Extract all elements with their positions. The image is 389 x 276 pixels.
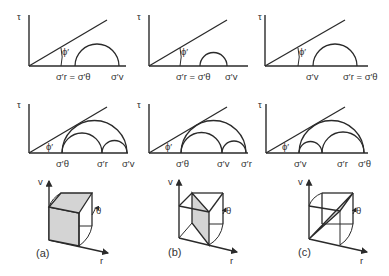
mohr-circle-small bbox=[102, 141, 127, 154]
tau-axis-label: τ bbox=[17, 11, 21, 22]
sigma-label: σ′v bbox=[225, 71, 238, 82]
failure-envelope bbox=[29, 107, 107, 153]
curved-edge bbox=[79, 226, 92, 246]
failure-envelope bbox=[29, 20, 107, 66]
mohr-circle bbox=[200, 53, 227, 67]
r-axis-label: r bbox=[360, 255, 363, 266]
v-axis-label: v bbox=[168, 176, 173, 187]
stress-element-a: v r θ (a) bbox=[36, 176, 108, 266]
mohr-circle bbox=[313, 44, 357, 66]
phi-label: ϕ′ bbox=[282, 141, 289, 152]
mohr-circle-minor bbox=[322, 132, 364, 153]
failure-envelope bbox=[265, 20, 345, 66]
curved-edge bbox=[309, 193, 322, 206]
stress-element-c: v r θ (c) bbox=[298, 176, 367, 266]
sigma-label: σ′v bbox=[217, 158, 230, 169]
mohr-circle bbox=[75, 44, 119, 66]
failure-envelope bbox=[149, 20, 227, 66]
theta-label: θ bbox=[96, 205, 101, 216]
sigma-label: σ′v bbox=[306, 71, 319, 82]
edge bbox=[209, 193, 223, 212]
tau-axis-label: τ bbox=[137, 11, 141, 22]
phi-label: ϕ′ bbox=[46, 141, 53, 152]
sigma-label: σ′r bbox=[241, 158, 252, 169]
sigma-label: σ′v bbox=[111, 71, 124, 82]
sigma-label: σ′θ bbox=[358, 158, 371, 169]
mohr-circle-minor bbox=[181, 132, 222, 153]
mohr-circle-major bbox=[299, 120, 364, 153]
caption-c: (c) bbox=[298, 246, 311, 258]
mohr-panel-1-3: τ ϕ′ σ′v σ′r = σ′θ bbox=[258, 11, 378, 82]
r-axis bbox=[309, 239, 367, 252]
curved-edge bbox=[209, 224, 223, 245]
tau-axis-label: τ bbox=[258, 11, 262, 22]
sigma-label: σ′r = σ′θ bbox=[56, 71, 91, 82]
mohr-circle-figure: τ ϕ′ σ′r = σ′θ σ′v τ ϕ′ σ′r = σ′θ σ′v τ … bbox=[0, 0, 389, 276]
theta-label: θ bbox=[356, 205, 361, 216]
caption-a: (a) bbox=[36, 247, 49, 259]
failure-envelope bbox=[266, 107, 345, 153]
sigma-label: σ′r = σ′θ bbox=[343, 71, 378, 82]
mohr-circle-minor bbox=[62, 133, 102, 153]
mohr-circle-small bbox=[299, 142, 322, 154]
phi-label: ϕ′ bbox=[62, 46, 69, 57]
shaded-face-diagonal bbox=[192, 193, 209, 245]
mohr-panel-1-1: τ ϕ′ σ′r = σ′θ σ′v bbox=[17, 11, 126, 82]
tau-axis-label: τ bbox=[137, 99, 141, 110]
mohr-panel-1-2: τ ϕ′ σ′r = σ′θ σ′v bbox=[137, 11, 248, 82]
v-axis-label: v bbox=[38, 176, 43, 187]
sigma-label: σ′r = σ′θ bbox=[176, 71, 211, 82]
shaded-face-front bbox=[49, 207, 79, 246]
v-axis-label: v bbox=[298, 176, 303, 187]
theta-label: θ bbox=[226, 205, 231, 216]
sigma-label: σ′θ bbox=[56, 158, 69, 169]
shaded-face-diagonal bbox=[309, 193, 353, 239]
sigma-label: σ′v bbox=[122, 158, 135, 169]
r-axis-label: r bbox=[100, 255, 103, 266]
sigma-label: σ′r bbox=[337, 158, 348, 169]
edge bbox=[309, 206, 340, 211]
sigma-label: σ′θ bbox=[176, 158, 189, 169]
mohr-circle-small bbox=[222, 141, 246, 153]
phi-label: ϕ′ bbox=[181, 46, 188, 57]
r-axis-label: r bbox=[230, 255, 233, 266]
caption-b: (b) bbox=[168, 246, 181, 258]
tau-axis-label: τ bbox=[17, 99, 21, 110]
mohr-panel-2-2: τ ϕ′ σ′θ σ′v σ′r bbox=[137, 99, 252, 169]
phi-label: ϕ′ bbox=[165, 141, 172, 152]
phi-label: ϕ′ bbox=[299, 46, 306, 57]
edge bbox=[179, 193, 192, 206]
sigma-label: σ′v bbox=[294, 158, 307, 169]
edge bbox=[179, 223, 192, 238]
tau-axis-label: τ bbox=[258, 99, 262, 110]
curved-edge bbox=[340, 224, 353, 245]
mohr-panel-2-1: τ ϕ′ σ′θ σ′r σ′v bbox=[17, 99, 135, 169]
failure-envelope bbox=[149, 107, 227, 153]
sigma-label: σ′r bbox=[97, 158, 108, 169]
stress-element-b: v r θ (b) bbox=[168, 176, 237, 266]
mohr-panel-2-3: τ ϕ′ σ′v σ′r σ′θ bbox=[258, 99, 371, 169]
